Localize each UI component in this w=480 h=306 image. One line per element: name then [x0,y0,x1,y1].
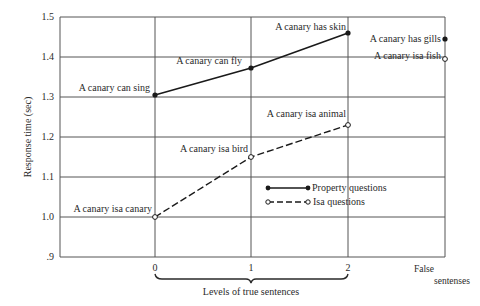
svg-text:1.0: 1.0 [42,211,55,222]
svg-text:1.1: 1.1 [42,171,55,182]
svg-text:0: 0 [153,262,158,273]
svg-text:1: 1 [249,262,254,273]
svg-text:A canary can fly: A canary can fly [176,55,242,66]
x-tick-labels: 0 1 2 [153,262,351,273]
isa-markers [153,57,448,220]
svg-text:A canary can sing: A canary can sing [79,82,150,93]
svg-text:Isa questions: Isa questions [313,196,365,207]
svg-text:A canary isa bird: A canary isa bird [180,143,248,154]
chart: 1.5 1.4 1.3 1.2 1.1 1.0 .9 Response time… [0,0,480,306]
svg-text:A canary isa animal: A canary isa animal [267,108,346,119]
svg-text:A canary isa fish: A canary isa fish [374,50,441,61]
y-tick-labels: 1.5 1.4 1.3 1.2 1.1 1.0 .9 [42,11,55,262]
svg-text:.9: .9 [47,251,55,262]
svg-text:1.4: 1.4 [42,51,55,62]
brace [155,274,348,283]
y-axis-label: Response time (sec) [22,97,34,178]
legend: Property questions Isa questions [266,182,387,207]
x-axis-label: Levels of true sentences [203,286,299,297]
svg-text:A canary has gills: A canary has gills [370,33,441,44]
svg-text:1.5: 1.5 [42,11,55,22]
svg-text:A canary isa canary: A canary isa canary [73,203,152,214]
svg-text:1.3: 1.3 [42,91,55,102]
x-label-false-line2: sentenses [434,276,470,286]
svg-text:A canary has skin: A canary has skin [275,21,346,32]
svg-text:Property questions: Property questions [312,182,387,193]
x-label-false-line1: False [414,264,434,274]
svg-text:1.2: 1.2 [42,131,55,142]
svg-text:2: 2 [346,262,351,273]
